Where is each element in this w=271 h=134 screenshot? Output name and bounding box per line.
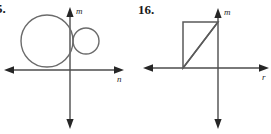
axis-label-vertical-left: m	[76, 6, 83, 16]
axis-label-horizontal-left: n	[117, 74, 122, 84]
horizontal-axis-right	[143, 64, 269, 72]
horizontal-axis-arrow-right-icon	[114, 66, 124, 74]
figure-right-triangle: r m	[135, 0, 271, 134]
figure-left-circles: n m	[0, 0, 135, 134]
large-circle	[21, 15, 73, 67]
small-circle	[73, 28, 99, 54]
horizontal-axis-arrow-left-icon	[4, 66, 14, 74]
triangle-hypotenuse	[183, 22, 218, 68]
horizontal-axis-arrow-left-icon	[143, 64, 153, 72]
vertical-axis-arrow-up-icon	[66, 7, 73, 17]
vertical-axis-arrow-down-icon	[214, 119, 221, 129]
figure-panel-right: 16. r m	[135, 0, 271, 134]
figure-panel-left: 5. n m	[0, 0, 135, 134]
horizontal-axis-arrow-right-icon	[259, 64, 269, 72]
vertical-axis-arrow-down-icon	[66, 119, 73, 129]
vertical-axis-arrow-up-icon	[214, 8, 221, 18]
worksheet-page: 5. n m 16.	[0, 0, 271, 134]
horizontal-axis-left	[4, 66, 124, 74]
axis-label-horizontal-right: r	[262, 72, 266, 82]
axis-label-vertical-right: m	[224, 7, 231, 17]
